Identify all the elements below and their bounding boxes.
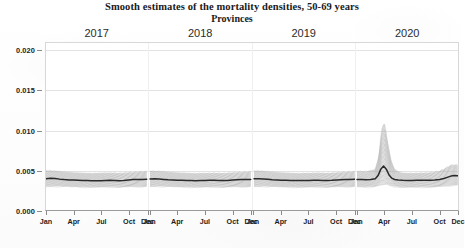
- y-tick-mark: [37, 50, 42, 51]
- province-line: [357, 125, 458, 175]
- x-tick-mark: [233, 211, 234, 215]
- y-tick-label: 0.010: [16, 126, 35, 135]
- x-tick-mark: [440, 211, 441, 215]
- panel-2017: [45, 42, 148, 211]
- y-tick-label: 0.005: [16, 166, 35, 175]
- x-tick-label: Dec: [451, 217, 464, 226]
- province-line: [357, 129, 458, 175]
- x-tick-label: Jan: [40, 217, 52, 226]
- panel-2020: [355, 42, 459, 211]
- x-axis-panel-2018: JanAprJulOctDec: [149, 211, 253, 241]
- x-tick-mark: [384, 211, 385, 215]
- panel-2018: [148, 42, 252, 211]
- y-axis: 0.0000.0050.0100.0150.020: [0, 42, 42, 211]
- y-tick-label: 0.015: [16, 86, 35, 95]
- x-tick-label: Jan: [247, 217, 259, 226]
- x-tick-mark: [458, 211, 459, 215]
- facet-label-2018: 2018: [149, 24, 253, 41]
- x-tick-label: Jul: [407, 217, 417, 226]
- province-line: [357, 129, 458, 176]
- x-axis-panel-2020: JanAprJulOctDec: [356, 211, 460, 241]
- x-axis-panel-2019: JanAprJulOctDec: [252, 211, 356, 241]
- x-tick-label: Jul: [303, 217, 313, 226]
- x-tick-label: Apr: [171, 217, 183, 226]
- x-tick-label: Oct: [434, 217, 446, 226]
- x-tick-mark: [412, 211, 413, 215]
- panel-2019: [252, 42, 356, 211]
- x-tick-mark: [281, 211, 282, 215]
- panel-series-2020: [356, 42, 459, 211]
- x-tick-label: Jul: [96, 217, 106, 226]
- x-tick-mark: [205, 211, 206, 215]
- x-tick-label: Jan: [350, 217, 362, 226]
- y-tick-mark: [37, 211, 42, 212]
- x-tick-mark: [129, 211, 130, 215]
- x-axis: JanAprJulOctDecJanAprJulOctDecJanAprJulO…: [45, 211, 459, 241]
- x-tick-label: Apr: [378, 217, 390, 226]
- y-tick-label: 0.000: [16, 207, 35, 216]
- y-tick-mark: [37, 131, 42, 132]
- x-tick-label: Jan: [143, 217, 155, 226]
- x-tick-mark: [336, 211, 337, 215]
- x-tick-label: Oct: [227, 217, 239, 226]
- x-tick-label: Apr: [67, 217, 79, 226]
- y-tick-mark: [37, 171, 42, 172]
- panel-series-2017: [45, 42, 148, 211]
- chart-title: Smooth estimates of the mortality densit…: [0, 1, 464, 12]
- y-tick-label: 0.020: [16, 46, 35, 55]
- facet-label-2017: 2017: [45, 24, 149, 41]
- x-tick-mark: [253, 211, 254, 215]
- x-tick-label: Oct: [330, 217, 342, 226]
- x-tick-mark: [357, 211, 358, 215]
- chart-subtitle: Provinces: [0, 13, 464, 24]
- facet-panels: [45, 42, 459, 211]
- x-tick-mark: [74, 211, 75, 215]
- panel-series-2019: [253, 42, 356, 211]
- x-tick-mark: [177, 211, 178, 215]
- facet-label-2019: 2019: [252, 24, 356, 41]
- x-tick-label: Jul: [200, 217, 210, 226]
- facet-strip: 2017 2018 2019 2020: [45, 24, 459, 41]
- x-tick-label: Oct: [123, 217, 135, 226]
- province-line: [357, 124, 458, 174]
- x-tick-mark: [150, 211, 151, 215]
- panel-series-2018: [149, 42, 252, 211]
- x-tick-mark: [46, 211, 47, 215]
- x-tick-mark: [101, 211, 102, 215]
- x-tick-label: Apr: [274, 217, 286, 226]
- x-axis-panel-2017: JanAprJulOctDec: [45, 211, 149, 241]
- plot-area: [45, 42, 459, 211]
- y-tick-mark: [37, 90, 42, 91]
- x-tick-mark: [308, 211, 309, 215]
- facet-label-2020: 2020: [356, 24, 460, 41]
